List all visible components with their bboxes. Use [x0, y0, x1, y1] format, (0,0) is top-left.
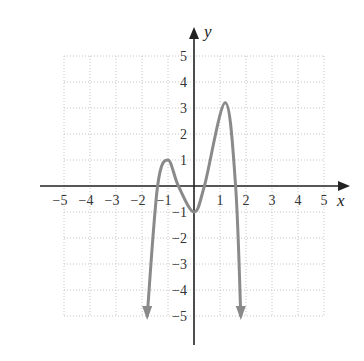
- y-tick-label: −4: [172, 283, 187, 298]
- y-tick-label: −5: [172, 309, 187, 324]
- curve-left-arrow-icon: [142, 306, 152, 320]
- x-tick-label: 5: [321, 193, 328, 208]
- x-tick-label: 4: [295, 193, 302, 208]
- y-tick-label: −2: [172, 231, 187, 246]
- x-tick-label: 1: [217, 193, 224, 208]
- y-tick-label: −1: [172, 205, 187, 220]
- x-tick-labels: −5−4−3−2−112345: [53, 193, 328, 208]
- x-axis-arrow-icon: [338, 181, 350, 191]
- x-tick-label: −3: [105, 193, 120, 208]
- x-tick-label: −1: [157, 193, 172, 208]
- x-axis: [40, 181, 350, 191]
- y-tick-label: 5: [180, 49, 187, 64]
- y-axis-arrow-icon: [189, 27, 199, 39]
- x-tick-label: −5: [53, 193, 68, 208]
- function-graph: −5−4−3−2−112345 54321−1−2−3−4−5 x y: [0, 0, 364, 361]
- x-tick-label: 2: [243, 193, 250, 208]
- x-tick-label: 3: [269, 193, 276, 208]
- x-tick-label: −2: [131, 193, 146, 208]
- y-tick-label: 2: [180, 127, 187, 142]
- x-tick-label: −4: [79, 193, 94, 208]
- y-tick-label: 4: [180, 75, 187, 90]
- y-tick-label: 3: [180, 101, 187, 116]
- y-axis-label: y: [202, 22, 212, 41]
- x-axis-label: x: [336, 191, 345, 210]
- curve-right-arrow-icon: [236, 306, 246, 320]
- y-tick-label: −3: [172, 257, 187, 272]
- y-tick-label: 1: [180, 153, 187, 168]
